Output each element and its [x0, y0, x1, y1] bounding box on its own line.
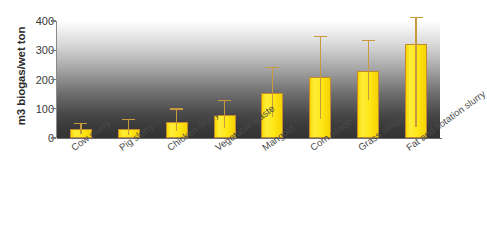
y-axis-tick-mark: [51, 108, 56, 109]
bar-group[interactable]: [357, 21, 379, 138]
error-bar-upper-cap: [266, 67, 279, 68]
y-axis-tick-label: 400: [24, 15, 54, 27]
y-axis-tick-label: 100: [24, 103, 54, 115]
y-axis-tick-label: 200: [24, 74, 54, 86]
error-bar-upper-cap: [314, 36, 327, 37]
bar-group[interactable]: [118, 21, 140, 138]
error-bar-line: [128, 120, 129, 135]
error-bar-upper-cap: [122, 119, 135, 120]
y-axis-tick-label: 0: [24, 132, 54, 144]
error-bar-line: [80, 124, 81, 134]
error-bar-line: [224, 101, 225, 127]
error-bar-upper-cap: [410, 17, 423, 18]
y-axis-tick-labels: 0100200300400: [24, 0, 54, 243]
y-axis-tick-mark: [51, 50, 56, 51]
y-axis-tick-mark: [51, 20, 56, 21]
error-bar-upper-cap: [170, 108, 183, 109]
y-axis-tick-mark: [51, 137, 56, 138]
error-bar-upper-cap: [218, 100, 231, 101]
y-axis-tick-mark: [51, 79, 56, 80]
error-bar-line: [320, 37, 321, 119]
y-axis-tick-label: 300: [24, 44, 54, 56]
bar-group[interactable]: [166, 21, 188, 138]
error-bar-upper-cap: [74, 123, 87, 124]
bar-group[interactable]: [70, 21, 92, 138]
bar-group[interactable]: [214, 21, 236, 138]
error-bar-line: [368, 41, 369, 100]
bar-group[interactable]: [261, 21, 283, 138]
error-bar-upper-cap: [362, 40, 375, 41]
bar-group[interactable]: [309, 21, 331, 138]
error-bar-line: [176, 110, 177, 131]
error-bar-line: [415, 18, 416, 127]
bar-group[interactable]: [405, 21, 427, 138]
